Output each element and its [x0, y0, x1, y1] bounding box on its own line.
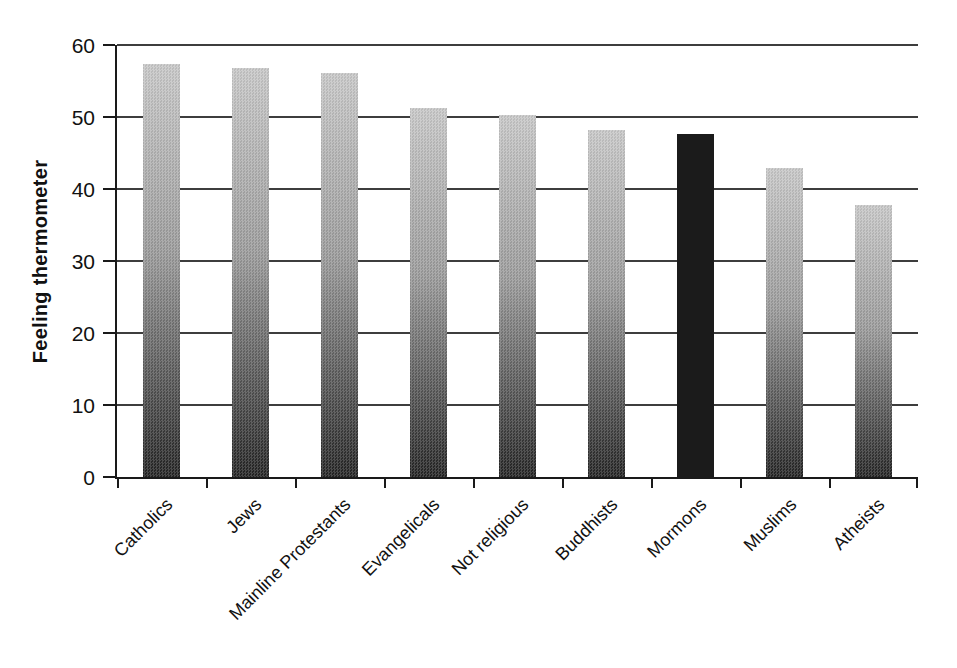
y-tick-label-40: 40 [45, 179, 95, 200]
bar-jews [232, 68, 269, 477]
y-tick-label-20: 20 [45, 323, 95, 344]
bar-catholics [143, 64, 180, 477]
gridline-60 [117, 44, 918, 46]
y-tick-label-60: 60 [45, 35, 95, 56]
bar-muslims [766, 168, 803, 477]
x-tick-6 [651, 477, 653, 488]
x-axis-label-not-religious: Not religious [449, 495, 532, 578]
bar-atheists [855, 205, 892, 477]
x-tick-3 [384, 477, 386, 488]
x-axis-label-catholics: Catholics [111, 495, 176, 560]
y-tick-label-30: 30 [45, 251, 95, 272]
y-tick-20 [103, 332, 115, 334]
x-tick-0 [117, 477, 119, 488]
y-tick-0 [103, 476, 115, 478]
x-tick-9 [916, 477, 918, 488]
x-tick-4 [473, 477, 475, 488]
y-tick-label-0: 0 [45, 467, 95, 488]
y-tick-30 [103, 260, 115, 262]
y-tick-label-50: 50 [45, 107, 95, 128]
bar-buddhists [588, 130, 625, 477]
x-axis-label-evangelicals: Evangelicals [359, 495, 443, 579]
y-tick-60 [103, 44, 115, 46]
bar-mormons [677, 134, 714, 477]
x-tick-2 [295, 477, 297, 488]
x-axis-label-muslims: Muslims [740, 495, 799, 554]
x-axis-label-buddhists: Buddhists [553, 495, 622, 564]
bar-evangelicals [410, 108, 447, 477]
x-axis-label-atheists: Atheists [830, 495, 888, 553]
y-tick-40 [103, 188, 115, 190]
y-tick-50 [103, 116, 115, 118]
feeling-thermometer-bar-chart: Feeling thermometer 0102030405060Catholi… [0, 0, 957, 668]
x-tick-5 [562, 477, 564, 488]
x-axis-label-mormons: Mormons [644, 495, 710, 561]
x-tick-1 [206, 477, 208, 488]
x-axis-label-jews: Jews [223, 495, 265, 537]
y-tick-10 [103, 404, 115, 406]
x-tick-8 [829, 477, 831, 488]
plot-area: 0102030405060CatholicsJewsMainline Prote… [115, 45, 918, 479]
bar-mainline-protestants [321, 73, 358, 477]
y-tick-label-10: 10 [45, 395, 95, 416]
bar-not-religious [499, 115, 536, 477]
x-tick-7 [740, 477, 742, 488]
